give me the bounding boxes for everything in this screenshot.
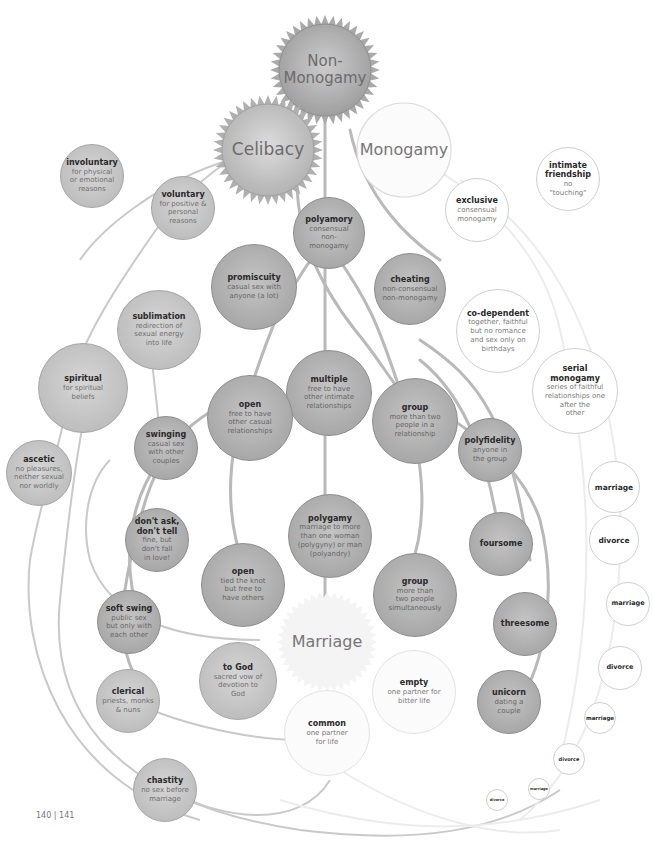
node-desc: no "touching" [549,180,586,198]
node-empty[interactable]: empty one partner for bitter life [372,650,456,734]
node-title: polyfidelity [465,436,516,446]
hub-marriage-label: Marriage [292,633,363,651]
node-desc: consensual non- monogamy [309,225,349,251]
node-title: divorce [598,536,629,545]
node-desc: casual sex with anyone (a lot) [227,283,281,301]
node-swinging[interactable]: swinging casual sex with other couples [134,416,198,480]
node-title: multiple [310,375,347,385]
node-desc: for positive & personal reasons [160,200,207,226]
node-voluntary[interactable]: voluntary for positive & personal reason… [151,176,215,240]
node-title: polygamy [308,514,352,524]
node-dont-ask-dont-tell[interactable]: don't ask, don't tell fine, but don't fa… [125,508,189,572]
hub-non-monogamy[interactable]: Non- Monogamy [279,24,371,116]
node-multiple[interactable]: multiple free to have other intimate rel… [286,350,372,436]
node-title: exclusive [456,196,498,206]
chain-divorce-3[interactable]: divorce [553,743,585,775]
node-group-simultaneous[interactable]: group more than two people simultaneousl… [373,553,457,637]
node-desc: tied the knot but free to have others [221,577,266,603]
node-title: marriage [586,715,614,722]
node-to-god[interactable]: to God sacred vow of devotion to God [199,642,277,720]
node-desc: no pleasures, neither sexual nor worldly [14,465,64,491]
hub-celibacy-label: Celibacy [232,140,304,160]
node-soft-swing[interactable]: soft swing public sex but only with each… [97,590,161,654]
node-desc: series of faithful relationships one aft… [545,383,605,418]
node-involuntary[interactable]: involuntary for physical or emotional re… [60,144,124,208]
node-polyamory[interactable]: polyamory consensual non- monogamy [293,197,365,269]
chain-divorce-1[interactable]: divorce [589,515,639,565]
node-desc: casual sex with other couples [148,440,185,466]
node-sublimation[interactable]: sublimation redirection of sexual energy… [117,290,201,370]
node-threesome[interactable]: threesome [493,592,557,656]
node-desc: more than two people in a relationship [389,413,440,439]
hub-monogamy[interactable]: Monogamy [357,103,451,197]
node-polyfidelity[interactable]: polyfidelity anyone in the group [458,418,522,482]
node-title: sublimation [132,312,185,322]
node-promiscuity[interactable]: promiscuity casual sex with anyone (a lo… [211,244,297,330]
node-polygamy[interactable]: polygamy marriage to more than one woman… [288,494,372,578]
node-desc: fine, but don't fall in love! [142,536,173,562]
node-unicorn[interactable]: unicorn dating a couple [477,670,541,734]
node-foursome[interactable]: foursome [469,512,533,576]
hub-monogamy-label: Monogamy [360,141,449,159]
node-title: marriage [530,787,548,791]
node-desc: more than two people simultaneously [388,587,441,613]
node-title: marriage [595,483,633,492]
node-title: involuntary [66,158,118,168]
node-desc: together, faithful but no romance and se… [468,318,527,353]
node-title: empty [400,678,429,688]
chain-marriage-1[interactable]: marriage [588,461,640,513]
node-intimate-friendship[interactable]: intimate friendship no "touching" [536,147,600,211]
node-title: voluntary [161,190,204,200]
node-common[interactable]: common one partner for life [284,690,370,776]
hub-celibacy[interactable]: Celibacy [222,104,314,196]
node-title: group [402,577,429,587]
node-title: threesome [501,619,549,629]
node-title: marriage [611,600,644,608]
node-title: promiscuity [227,273,280,283]
node-title: clerical [112,687,144,697]
node-cheating[interactable]: cheating non-consensual non-monogamy [374,253,446,325]
node-title: serial monogamy [550,364,600,383]
node-title: intimate friendship [545,161,591,180]
node-title: foursome [480,539,523,549]
chain-marriage-3[interactable]: marriage [584,702,616,734]
node-spiritual[interactable]: spiritual for spiritual beliefs [38,343,128,433]
node-ascetic[interactable]: ascetic no pleasures, neither sexual nor… [6,440,72,506]
chain-marriage-4[interactable]: marriage [528,778,550,800]
node-title: divorce [559,756,580,762]
node-title: soft swing [106,604,153,614]
page-number: 140 | 141 [36,811,74,820]
node-title: co-dependent [467,309,529,319]
node-title: ascetic [23,455,55,465]
node-desc: dating a couple [495,698,524,716]
node-desc: anyone in the group [473,446,508,464]
node-title: swinging [146,430,186,440]
node-open-married[interactable]: open tied the knot but free to have othe… [201,543,285,627]
node-desc: public sex but only with each other [106,614,152,640]
node-exclusive[interactable]: exclusive consensual monogamy [445,178,509,242]
node-title: common [308,719,346,729]
node-desc: sacred vow of devotion to God [214,673,263,699]
node-title: chastity [147,776,183,786]
node-desc: no sex before marriage [141,786,189,804]
node-desc: redirection of sexual energy into life [134,322,183,348]
node-title: spiritual [64,374,102,384]
node-co-dependent[interactable]: co-dependent together, faithful but no r… [456,289,540,373]
node-desc: free to have other casual relationships [228,410,273,436]
node-serial-monogamy[interactable]: serial monogamy series of faithful relat… [532,348,618,434]
hub-marriage[interactable]: Marriage [283,598,371,686]
node-title: group [402,403,429,413]
node-desc: for physical or emotional reasons [70,168,114,194]
node-group-relationship[interactable]: group more than two people in a relation… [372,378,458,464]
node-chastity[interactable]: chastity no sex before marriage [133,758,197,822]
hub-non-monogamy-label: Non- Monogamy [283,53,366,88]
node-desc: priests, monks & nuns [102,697,153,715]
node-clerical[interactable]: clerical priests, monks & nuns [96,669,160,733]
chain-marriage-2[interactable]: marriage [606,582,650,626]
chain-divorce-2[interactable]: divorce [598,646,642,690]
chain-divorce-4[interactable]: divorce [486,789,508,811]
node-title: don't ask, don't tell [135,517,180,536]
node-desc: one partner for bitter life [387,688,440,706]
node-open-casual[interactable]: open free to have other casual relations… [207,375,293,461]
node-desc: for spiritual beliefs [63,384,103,402]
